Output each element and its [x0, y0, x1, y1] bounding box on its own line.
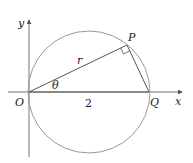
- y-axis-label: y: [17, 17, 25, 30]
- origin-label: O: [15, 96, 24, 109]
- segment-op: [29, 45, 127, 92]
- diameter-length-label: 2: [85, 97, 92, 110]
- radius-label: r: [77, 54, 83, 67]
- point-p-label: P: [127, 31, 136, 44]
- x-axis-label: x: [175, 95, 182, 108]
- diagram-canvas: y x O P Q r θ 2: [0, 0, 193, 163]
- right-angle-marker: [121, 48, 130, 54]
- angle-theta-label: θ: [52, 79, 59, 92]
- point-q-label: Q: [150, 96, 159, 109]
